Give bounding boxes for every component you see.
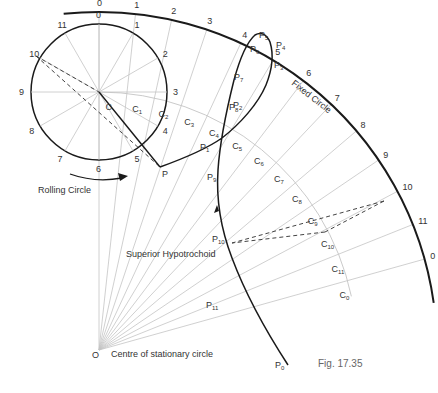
fixed-circle-label: Fixed Circle xyxy=(290,78,334,115)
labels-layer: Rolling Circle Fixed Circle Superior Hyp… xyxy=(0,0,438,393)
curve-label: Superior Hypotrochoid xyxy=(126,249,216,259)
O-label: O xyxy=(92,350,99,360)
centre-label: Centre of stationary circle xyxy=(111,349,213,359)
rolling-circle-label: Rolling Circle xyxy=(38,185,91,195)
figure-caption: Fig. 17.35 xyxy=(318,358,362,369)
